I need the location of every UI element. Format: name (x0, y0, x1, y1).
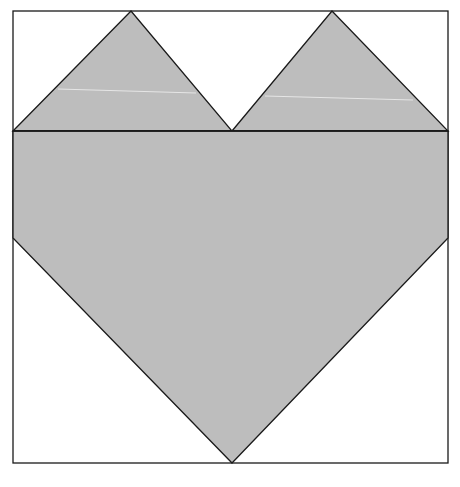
heart-quilt-diagram (0, 0, 460, 487)
